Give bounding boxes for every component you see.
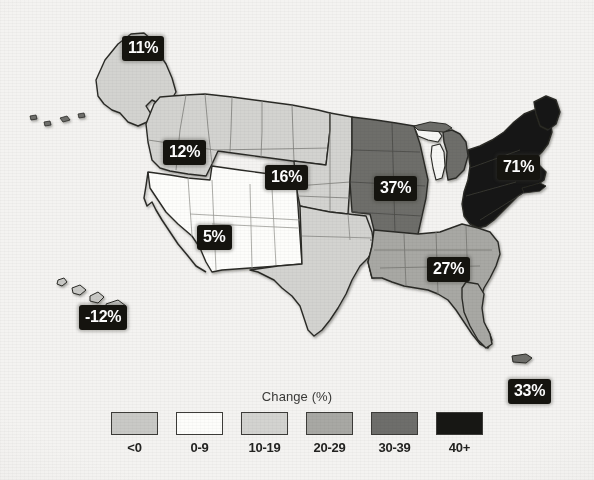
region-puerto-rico [512, 354, 532, 363]
region-label-north-central: 16% [265, 165, 308, 190]
legend-item-10-19: 10-19 [241, 412, 288, 455]
region-michigan [443, 130, 468, 180]
legend-item-0-9: 0-9 [176, 412, 223, 455]
legend-label-40-plus: 40+ [436, 440, 483, 455]
legend-swatch-30-39 [371, 412, 418, 435]
region-label-northwest: 12% [163, 140, 206, 165]
legend-items: <0 0-9 10-19 20-29 30-39 40+ [0, 412, 594, 455]
legend-item-30-39: 30-39 [371, 412, 418, 455]
region-label-hawaii: -12% [79, 305, 127, 330]
region-label-southwest: 5% [197, 225, 232, 250]
lake-michigan [431, 144, 445, 180]
legend-label-10-19: 10-19 [241, 440, 288, 455]
legend-item-below-0: <0 [111, 412, 158, 455]
region-label-northeast: 71% [497, 155, 540, 180]
legend-label-below-0: <0 [111, 440, 158, 455]
legend-item-20-29: 20-29 [306, 412, 353, 455]
region-florida [462, 282, 492, 348]
region-label-southeast: 27% [427, 257, 470, 282]
map-legend: Change (%) <0 0-9 10-19 20-29 30-39 40+ [0, 386, 594, 480]
legend-swatch-below-0 [111, 412, 158, 435]
choropleth-map: 11% 12% 16% 5% 37% 71% 27% -12% 33% [0, 0, 594, 386]
legend-swatch-10-19 [241, 412, 288, 435]
legend-label-0-9: 0-9 [176, 440, 223, 455]
legend-swatch-0-9 [176, 412, 223, 435]
legend-swatch-40-plus [436, 412, 483, 435]
legend-label-20-29: 20-29 [306, 440, 353, 455]
alaska-islands [30, 113, 85, 126]
region-label-midwest: 37% [374, 176, 417, 201]
legend-swatch-20-29 [306, 412, 353, 435]
legend-label-30-39: 30-39 [371, 440, 418, 455]
region-label-alaska: 11% [122, 36, 164, 61]
michigan-upper-peninsula [414, 122, 452, 132]
legend-title: Change (%) [0, 389, 594, 404]
legend-item-40-plus: 40+ [436, 412, 483, 455]
